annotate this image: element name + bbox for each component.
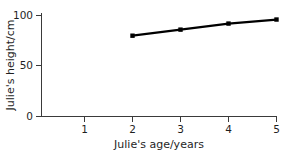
x-tick-label-3: 3	[177, 123, 184, 135]
data-point-marker	[178, 27, 182, 31]
data-line-julies-height	[133, 20, 277, 36]
x-axis-title: Julie's age/years	[113, 138, 204, 151]
data-point-marker	[274, 17, 278, 21]
x-tick-label-5: 5	[273, 123, 280, 135]
y-tick-label-100: 100	[13, 9, 33, 21]
data-point-marker	[130, 34, 134, 38]
chart-canvas: 100 50 0 1 2 3 4 5 Julie's age/years Jul…	[0, 0, 297, 153]
data-point-marker	[226, 21, 230, 25]
x-tick-label-4: 4	[225, 123, 232, 135]
y-tick-label-50: 50	[20, 59, 33, 71]
y-axis-title: Julie's height/cm	[4, 20, 17, 112]
y-tick-label-0: 0	[26, 110, 33, 122]
x-tick-label-1: 1	[81, 123, 88, 135]
x-tick-label-2: 2	[129, 123, 136, 135]
line-chart: 100 50 0 1 2 3 4 5 Julie's age/years Jul…	[0, 0, 297, 153]
